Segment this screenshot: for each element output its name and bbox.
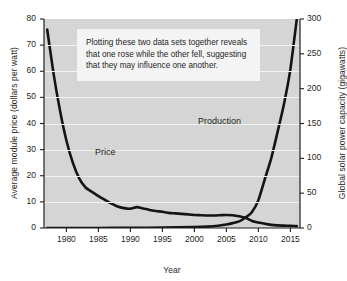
y-axis-left-tick-label: 30 <box>10 144 36 154</box>
y-axis-left-tick-label: 70 <box>10 39 36 49</box>
y-axis-right-tick-label: 0 <box>307 222 333 232</box>
x-axis-tick-label: 2015 <box>273 234 307 244</box>
x-axis-tick-label: 1995 <box>145 234 179 244</box>
y-axis-left-tick-label: 0 <box>10 222 36 232</box>
x-axis-title: Year <box>44 265 300 275</box>
series-label-production: Production <box>198 116 241 126</box>
y-axis-right-tick-label: 100 <box>307 152 333 162</box>
y-axis-right-title: Global solar power capacity (gigawatts) <box>337 23 347 223</box>
y-axis-left-tick-label: 10 <box>10 196 36 206</box>
y-axis-right-tick-label: 150 <box>307 118 333 128</box>
x-axis-tick-label: 2005 <box>209 234 243 244</box>
x-axis-tick-label: 1990 <box>113 234 147 244</box>
x-axis-tick-label: 2000 <box>177 234 211 244</box>
y-axis-right-tick-label: 250 <box>307 48 333 58</box>
x-axis-tick-label: 2010 <box>241 234 275 244</box>
gridline <box>44 176 300 177</box>
y-axis-left-tick-label: 80 <box>10 13 36 23</box>
y-axis-right-tick-label: 300 <box>307 13 333 23</box>
gridline <box>44 124 300 125</box>
y-axis-right-tick-label: 200 <box>307 83 333 93</box>
annotation-text-box: Plotting these two data sets together re… <box>77 29 260 81</box>
series-label-price: Price <box>95 147 116 157</box>
gridline <box>44 97 300 98</box>
y-axis-left-tick-label: 50 <box>10 91 36 101</box>
x-axis-tick-label: 1985 <box>81 234 115 244</box>
y-axis-right-tick-label: 50 <box>307 187 333 197</box>
y-axis-left-tick-label: 20 <box>10 170 36 180</box>
gridline <box>44 202 300 203</box>
gridline <box>44 150 300 151</box>
x-axis-tick-label: 1980 <box>49 234 83 244</box>
plot-area: Plotting these two data sets together re… <box>44 19 300 228</box>
y-axis-left-tick-label: 40 <box>10 118 36 128</box>
y-axis-left-tick-label: 60 <box>10 65 36 75</box>
